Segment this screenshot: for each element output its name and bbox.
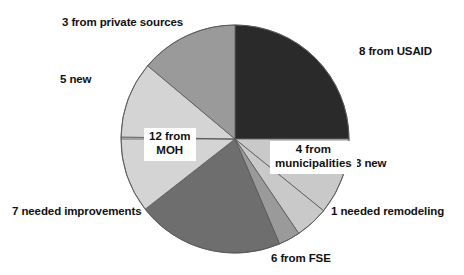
slice-label-private-sources: 3 from private sources: [62, 16, 183, 30]
slice-label-three-new: 3 new: [355, 157, 386, 171]
slice-label-usaid: 8 from USAID: [359, 45, 432, 59]
slice-label-box-municipalities: 4 from municipalities: [270, 141, 357, 174]
pie-chart-canvas: [0, 0, 464, 275]
slice-label-five-new: 5 new: [60, 73, 91, 87]
pie-chart: 3 from private sources 8 from USAID 5 ne…: [0, 0, 464, 275]
pie-slice: [235, 25, 349, 139]
slice-label-needed-remodeling: 1 needed remodeling: [331, 205, 444, 219]
slice-label-moh-line2: MOH: [149, 144, 191, 158]
slice-label-moh-line1: 12 from: [149, 130, 191, 144]
slice-label-muni-line2: municipalities: [275, 157, 352, 171]
slice-label-from-fse: 6 from FSE: [271, 252, 331, 266]
slice-label-needed-improvements: 7 needed improvements: [12, 205, 142, 219]
slice-label-muni-line1: 4 from: [275, 143, 352, 157]
slice-label-box-moh: 12 from MOH: [144, 128, 196, 161]
